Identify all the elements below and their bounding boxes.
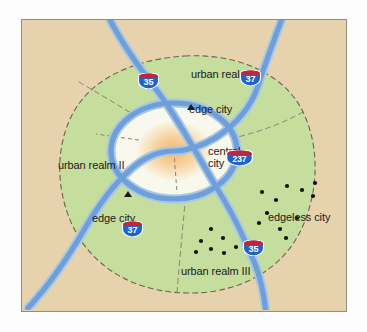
interstate-37-southwest-shield[interactable]: 37: [122, 221, 143, 237]
shield-route-number: 37: [122, 226, 143, 236]
edgeless-city-dot: [311, 194, 315, 198]
edgeless-city-dot: [285, 184, 289, 188]
edgeless-city-dot: [300, 188, 304, 192]
edgeless-city-dot: [274, 198, 278, 202]
interstate-237-central-shield[interactable]: 237: [226, 150, 253, 166]
urban-realm-iii-dot: [209, 227, 213, 231]
urban-realm-iii-dot: [234, 245, 238, 249]
edge-city-marker-north-icon: [187, 104, 195, 110]
label-edgeless-city: edgeless city: [268, 211, 330, 224]
interstate-37-northeast-shield[interactable]: 37: [240, 70, 261, 86]
shield-route-number: 35: [243, 245, 264, 255]
urban-realms-map-figure: urban realm I urban realm II urban realm…: [0, 0, 367, 332]
label-urban-realm-iii: urban realm III: [181, 265, 250, 278]
urban-realm-iii-dot: [222, 251, 226, 255]
label-urban-realm-ii: urban realm II: [58, 159, 124, 172]
edgeless-city-dot: [278, 227, 282, 231]
urban-realm-iii-dot: [221, 236, 225, 240]
interstate-35-south-shield[interactable]: 35: [243, 240, 264, 256]
edgeless-city-dot: [260, 190, 264, 194]
edgeless-city-dot: [284, 236, 288, 240]
shield-route-number: 37: [240, 75, 261, 85]
shield-route-number: 35: [138, 78, 159, 88]
urban-realm-iii-dot: [194, 250, 198, 254]
interstate-35-north-shield[interactable]: 35: [138, 73, 159, 89]
urban-realm-iii-dot: [209, 247, 213, 251]
label-central-city-line2: city: [208, 157, 224, 170]
edgeless-city-dot: [257, 221, 261, 225]
shield-route-number: 237: [226, 155, 253, 165]
label-edge-city-north: edge city: [189, 103, 232, 116]
edge-city-marker-west-icon: [124, 191, 132, 197]
edgeless-city-dot: [313, 181, 317, 185]
map-frame: urban realm I urban realm II urban realm…: [21, 19, 347, 312]
urban-realm-iii-dot: [199, 239, 203, 243]
